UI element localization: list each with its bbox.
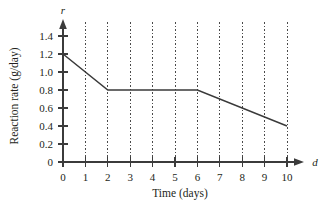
x-tick-label-7: 7: [217, 171, 223, 183]
x-tick-label-1: 1: [83, 171, 89, 183]
x-tick-label-0: 0: [60, 171, 66, 183]
x-tick-label-4: 4: [150, 171, 156, 183]
gridlines-group: [85, 22, 287, 162]
y-tick-label-1.0: 1.0: [39, 66, 53, 78]
chart-plot-area: 0 0.2 0.4 0.6 0.8 1.0 1.2 1.4 0 1 2 3 4 …: [0, 0, 331, 201]
x-tick-label-9: 9: [262, 171, 268, 183]
x-tick-label-5: 5: [172, 171, 178, 183]
x-tick-label-2: 2: [105, 171, 111, 183]
y-tick-label-0.8: 0.8: [39, 84, 53, 96]
y-tick-label-0.6: 0.6: [39, 102, 53, 114]
x-axis-variable-label: d: [312, 156, 318, 168]
y-axis-title: Reaction rate (g/day): [8, 47, 21, 144]
y-axis-variable-label: r: [61, 4, 66, 16]
y-axis: [58, 19, 68, 162]
x-tick-label-10: 10: [282, 171, 294, 183]
y-tick-label-0: 0: [48, 156, 54, 168]
x-axis-arrow-icon: [294, 158, 304, 166]
y-tick-label-1.4: 1.4: [39, 30, 53, 42]
x-tick-label-8: 8: [239, 171, 245, 183]
x-tick-label-3: 3: [127, 171, 133, 183]
x-tick-label-6: 6: [195, 171, 201, 183]
x-axis: [63, 157, 304, 167]
y-tick-label-0.4: 0.4: [39, 120, 53, 132]
y-tick-label-1.2: 1.2: [39, 48, 53, 60]
reaction-rate-chart-figure: 0 0.2 0.4 0.6 0.8 1.0 1.2 1.4 0 1 2 3 4 …: [0, 0, 331, 201]
y-tick-label-0.2: 0.2: [39, 138, 53, 150]
y-axis-arrow-icon: [59, 19, 67, 29]
x-axis-title: Time (days): [152, 187, 208, 200]
